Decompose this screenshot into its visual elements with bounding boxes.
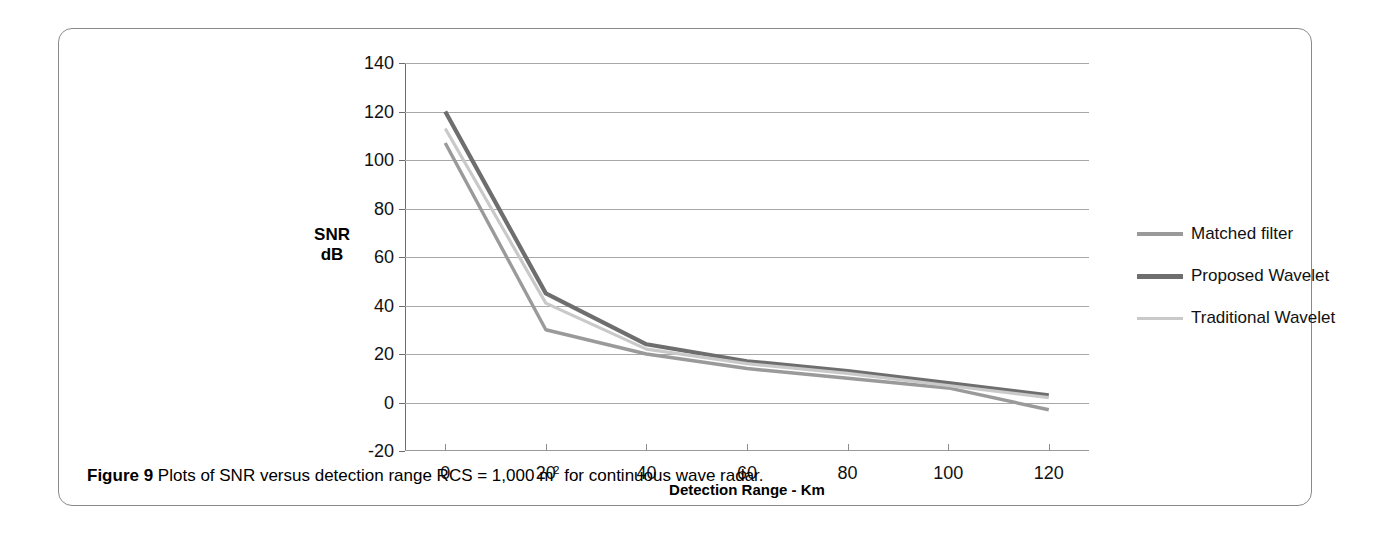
legend-item[interactable]: Traditional Wavelet [1137, 297, 1375, 339]
legend-label: Proposed Wavelet [1191, 266, 1329, 286]
y-tick-label: 120 [364, 101, 394, 122]
y-tick-label: 20 [374, 344, 394, 365]
y-tick-label: 80 [374, 198, 394, 219]
legend-label: Traditional Wavelet [1191, 308, 1335, 328]
y-tick-label: 60 [374, 247, 394, 268]
legend-label: Matched filter [1191, 224, 1293, 244]
y-tick-mark [399, 451, 405, 452]
caption-tail: for continuous wave radar. [559, 466, 763, 485]
y-tick-label: 40 [374, 295, 394, 316]
y-tick-label: -20 [368, 441, 394, 462]
series-line [445, 112, 1049, 396]
y-tick-label: 140 [364, 53, 394, 74]
plot-area: -20020406080100120140 020406080100120 Ma… [405, 63, 1089, 451]
legend-swatch-icon [1137, 317, 1183, 320]
legend-swatch-icon [1137, 232, 1183, 236]
y-axis-label-line1: SNR [287, 225, 377, 245]
caption-body: Plots of SNR versus detection range RCS … [158, 466, 553, 485]
legend-swatch-icon [1137, 274, 1183, 279]
legend-item[interactable]: Proposed Wavelet [1137, 255, 1375, 297]
series-lines [405, 63, 1089, 451]
y-tick-label: 0 [384, 392, 394, 413]
y-axis-label: SNR dB [287, 225, 377, 266]
figure-caption: Figure 9 Plots of SNR versus detection r… [87, 463, 1277, 488]
chart-area: SNR dB -20020406080100120140 02040608010… [59, 29, 1313, 449]
y-tick-label: 100 [364, 150, 394, 171]
caption-figure-number: Figure 9 [87, 466, 153, 485]
series-line [445, 128, 1049, 397]
y-axis-label-line2: dB [287, 245, 377, 265]
figure-panel: SNR dB -20020406080100120140 02040608010… [58, 28, 1312, 506]
legend: Matched filterProposed WaveletTraditiona… [1137, 213, 1375, 339]
legend-item[interactable]: Matched filter [1137, 213, 1375, 255]
